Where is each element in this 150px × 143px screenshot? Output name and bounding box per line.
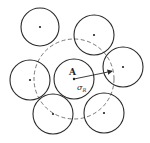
neighbor-particles	[10, 8, 143, 134]
label-a: A	[68, 67, 77, 77]
neighbor-particle-center-dot	[103, 112, 105, 114]
neighbor-particle-center-dot	[52, 113, 54, 115]
neighbor-particle-center-dot	[93, 34, 95, 36]
neighbor-particle-center-dot	[29, 79, 31, 81]
label-sigma: σR	[77, 83, 86, 93]
neighbor-particle-center-dot	[122, 66, 124, 68]
particle-interaction-diagram: A σR	[0, 0, 150, 143]
neighbor-particle-center-dot	[39, 26, 41, 28]
label-sigma-subscript: R	[81, 87, 86, 93]
